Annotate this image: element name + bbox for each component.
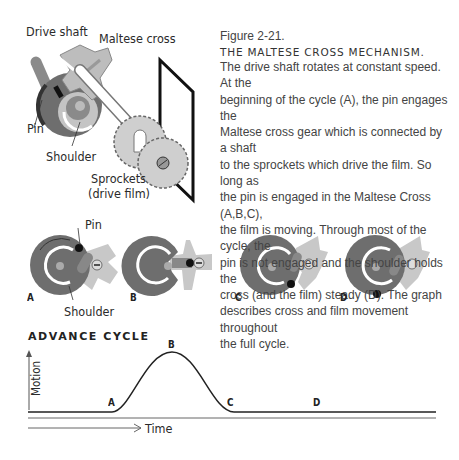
sprockets-label: Sprockets (91, 172, 146, 185)
stage-a-diagram (30, 228, 118, 300)
stage-shoulder-label: Shoulder (64, 305, 114, 318)
figure-title: THE MALTESE CROSS MECHANISM. (220, 46, 425, 58)
caption-line: The drive shaft rotates at constant spee… (220, 59, 452, 92)
pin-label: Pin (27, 122, 44, 135)
shoulder-label: Shoulder (46, 150, 96, 163)
caption-line: cross (and the film) steady (D). The gra… (220, 287, 452, 303)
drive-shaft-label: Drive shaft (26, 25, 88, 38)
graph-point-d: D (313, 396, 320, 409)
stage-b-letter: B (130, 291, 137, 304)
sprockets-sublabel: (drive film) (88, 187, 150, 200)
caption-line: the full cycle. (220, 336, 452, 352)
stage-b-diagram (121, 236, 212, 296)
maltese-cross-label: Maltese cross (99, 32, 176, 45)
stage-c-letter: C (235, 291, 241, 304)
caption-line: to the sprockets which drive the film. S… (220, 157, 452, 190)
figure-caption: The drive shaft rotates at constant spee… (220, 59, 452, 352)
stage-a-letter: A (27, 291, 34, 304)
caption-line: the film is moving. Through most of the … (220, 222, 452, 255)
stage-pin-label: Pin (85, 218, 102, 231)
figure-number: Figure 2-21. (220, 29, 285, 43)
caption-line: the pin is engaged in the Maltese Cross … (220, 189, 452, 222)
graph-x-label: Time (145, 422, 172, 435)
caption-line: beginning of the cycle (A), the pin enga… (220, 92, 452, 125)
caption-line: describes cross and film movement throug… (220, 303, 452, 336)
graph-point-b: B (168, 338, 175, 351)
advance-cycle-graph (26, 350, 436, 432)
graph-title: ADVANCE CYCLE (28, 330, 150, 343)
graph-y-label: Motion (30, 361, 43, 396)
caption-line: pin is not engaged and the shoulder hold… (220, 255, 452, 288)
stage-d-letter: D (340, 291, 347, 304)
graph-point-a: A (108, 396, 115, 409)
graph-point-c: C (227, 396, 233, 409)
caption-line: Maltese cross gear which is connected by… (220, 124, 452, 157)
